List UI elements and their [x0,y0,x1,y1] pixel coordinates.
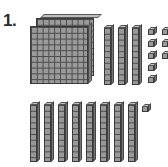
tens-rod [104,27,111,85]
hundreds-flat-back-top [40,14,102,18]
tens-rod [30,104,37,162]
hundreds-flat-front-side [88,22,92,84]
ones-unit [142,106,148,112]
tens-rod [72,104,79,162]
tens-rod [128,104,135,162]
tens-rod [86,104,93,162]
tens-rod [100,104,107,162]
ones-unit [162,41,168,47]
tens-rod [58,104,65,162]
ones-unit [148,41,154,47]
ones-unit [148,29,154,35]
problem-number: 1. [3,11,16,31]
ones-unit [162,53,168,59]
tens-rod [132,27,139,85]
tens-rod [114,104,121,162]
ones-unit [148,53,154,59]
hundreds-flat-front [30,26,88,84]
ones-unit [162,29,168,35]
ones-unit [148,65,154,71]
tens-rod [118,27,125,85]
ones-unit [148,77,154,83]
tens-rod [44,104,51,162]
